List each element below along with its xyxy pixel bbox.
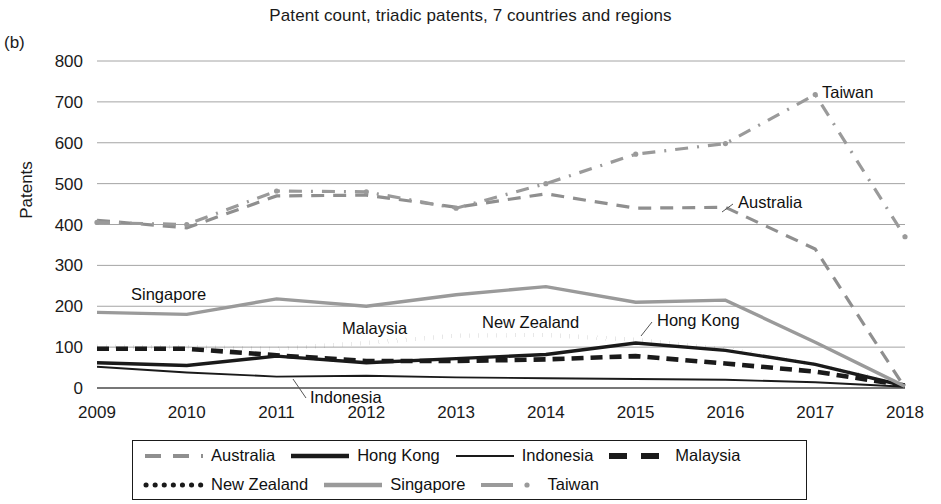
y-tick-label: 200 [55, 297, 83, 316]
legend-label: Hong Kong [357, 446, 440, 465]
series-marker-taiwan [364, 189, 369, 194]
legend-swatch [454, 449, 516, 463]
legend-row-1: AustraliaHong KongIndonesiaMalaysia [133, 441, 806, 470]
series-marker-taiwan [633, 152, 638, 157]
leader-hong-kong [641, 322, 652, 336]
annotation-taiwan: Taiwan [822, 83, 873, 101]
legend-label: Indonesia [522, 446, 594, 465]
x-tick-label: 2009 [78, 403, 116, 422]
plot-area: 0100200300400500600700800200920102011201… [0, 0, 941, 440]
legend-label: Singapore [390, 475, 465, 494]
x-tick-label: 2015 [617, 403, 655, 422]
legend-swatch [143, 449, 205, 463]
y-tick-label: 0 [74, 379, 83, 398]
series-marker-taiwan [274, 188, 279, 193]
x-tick-label: 2011 [258, 403, 295, 422]
legend-swatch [607, 449, 669, 463]
series-marker-taiwan [723, 141, 728, 146]
y-tick-label: 500 [55, 175, 83, 194]
annotation-malaysia: Malaysia [342, 319, 408, 337]
series-marker-taiwan [184, 222, 189, 227]
x-tick-label: 2014 [527, 403, 565, 422]
legend-item-taiwan[interactable]: Taiwan [479, 475, 612, 494]
series-marker-taiwan [94, 220, 99, 225]
legend-swatch [479, 478, 541, 492]
annotation-singapore: Singapore [131, 285, 206, 303]
y-tick-label: 600 [55, 134, 83, 153]
legend-item-singapore[interactable]: Singapore [322, 475, 479, 494]
x-tick-label: 2016 [707, 403, 745, 422]
chart-container: Patent count, triadic patents, 7 countri… [0, 0, 941, 504]
legend-swatch [289, 449, 351, 463]
x-tick-label: 2010 [168, 403, 206, 422]
annotation-hong-kong: Hong Kong [657, 311, 740, 329]
chart-legend: AustraliaHong KongIndonesiaMalaysia New … [132, 440, 807, 500]
legend-item-hong-kong[interactable]: Hong Kong [289, 446, 454, 465]
series-line-taiwan [97, 95, 905, 237]
y-tick-label: 700 [55, 93, 83, 112]
legend-label: Australia [211, 446, 275, 465]
series-marker-taiwan [454, 206, 459, 211]
series-line-malaysia [97, 349, 905, 386]
legend-label: Malaysia [675, 446, 740, 465]
legend-item-australia[interactable]: Australia [143, 446, 289, 465]
x-tick-label: 2018 [886, 403, 924, 422]
legend-row-2: New ZealandSingaporeTaiwan [133, 470, 806, 499]
x-tick-label: 2017 [796, 403, 834, 422]
series-marker-taiwan [902, 234, 907, 239]
series-marker-taiwan [543, 181, 548, 186]
y-tick-label: 300 [55, 256, 83, 275]
y-tick-label: 100 [55, 338, 83, 357]
legend-label: Taiwan [547, 475, 598, 494]
legend-swatch [143, 478, 205, 492]
annotation-new-zealand: New Zealand [482, 313, 579, 331]
legend-item-new-zealand[interactable]: New Zealand [143, 475, 322, 494]
series-line-singapore [97, 287, 905, 387]
y-tick-label: 400 [55, 216, 83, 235]
legend-label: New Zealand [211, 475, 308, 494]
y-tick-label: 800 [55, 52, 83, 71]
annotation-australia: Australia [738, 193, 803, 211]
series-marker-taiwan [813, 92, 818, 97]
legend-item-indonesia[interactable]: Indonesia [454, 446, 608, 465]
x-tick-label: 2013 [437, 403, 475, 422]
legend-swatch [322, 478, 384, 492]
annotation-indonesia: Indonesia [310, 388, 382, 406]
legend-item-malaysia[interactable]: Malaysia [607, 446, 754, 465]
